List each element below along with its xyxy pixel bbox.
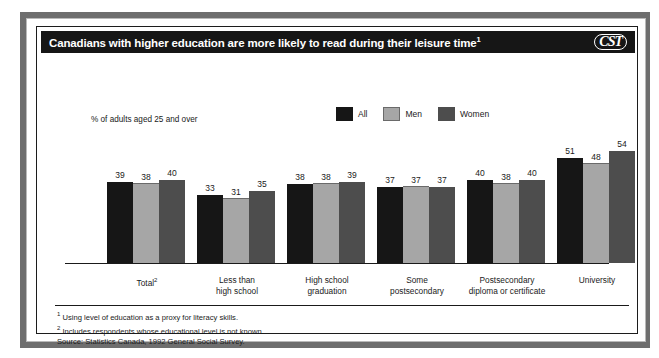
footnotes-block: 1 Using level of education as a proxy fo… [57, 309, 627, 348]
chart-card: Canadians with higher education are more… [36, 26, 638, 334]
bar [313, 183, 339, 263]
bar-chart-canvas: 393840333135383839373737403840514854 [87, 139, 627, 263]
bar-group: 383839 [287, 139, 365, 263]
bar-column: 40 [467, 139, 493, 263]
x-axis-label-line: University [538, 275, 656, 286]
bar-column: 38 [313, 139, 339, 263]
footnote-line: 1 Using level of education as a proxy fo… [57, 309, 627, 323]
bar-column: 48 [583, 139, 609, 263]
chart-legend: All Men Women [336, 107, 489, 121]
footnote-line: 2 Includes respondents whose educational… [57, 323, 627, 337]
bar-column: 39 [107, 139, 133, 263]
bar-column: 39 [339, 139, 365, 263]
bar [557, 158, 583, 263]
bar-column: 38 [493, 139, 519, 263]
bar [159, 180, 185, 263]
page-root: Canadians with higher education are more… [0, 0, 659, 358]
bar [223, 198, 249, 263]
footnote-marker: 2 [57, 325, 60, 331]
bar-value-label: 39 [337, 170, 367, 180]
category-footnote-marker: 2 [154, 277, 157, 283]
bar-group: 514854 [557, 139, 635, 263]
bar-value-label: 54 [607, 139, 637, 149]
bar [377, 187, 403, 263]
y-axis-label: % of adults aged 25 and over [91, 115, 198, 124]
legend-item-men: Men [383, 107, 422, 121]
legend-swatch-all [336, 107, 353, 121]
bar-column: 31 [223, 139, 249, 263]
bar-column: 40 [519, 139, 545, 263]
cst-logo: CST [594, 34, 627, 50]
bar-group: 373737 [377, 139, 455, 263]
legend-label-men: Men [405, 109, 422, 119]
bar-column: 37 [429, 139, 455, 263]
bar-value-label: 37 [427, 175, 457, 185]
chart-title-text: Canadians with higher education are more… [49, 37, 477, 49]
bar-column: 54 [609, 139, 635, 263]
bar-column: 33 [197, 139, 223, 263]
bar [609, 151, 635, 263]
bar [429, 187, 455, 263]
bar-column: 38 [287, 139, 313, 263]
bar-column: 51 [557, 139, 583, 263]
bar [467, 180, 493, 263]
footnote-line: Source: Statistics Canada, 1992 General … [57, 337, 627, 348]
footnote-marker: 1 [57, 311, 60, 317]
x-axis-label: University [538, 275, 656, 286]
bar [403, 186, 429, 263]
bar [249, 191, 275, 263]
bar-value-label: 48 [581, 152, 611, 162]
bar-column: 37 [403, 139, 429, 263]
bar [493, 183, 519, 263]
bar [339, 182, 365, 263]
legend-label-all: All [358, 109, 367, 119]
bar [583, 163, 609, 263]
bar-value-label: 40 [517, 168, 547, 178]
bar-group: 393840 [107, 139, 185, 263]
legend-swatch-women [438, 107, 455, 121]
bar-group: 333135 [197, 139, 275, 263]
bar-value-label: 40 [157, 168, 187, 178]
x-axis-category-labels: Total2Less thanhigh schoolHigh schoolgra… [87, 267, 635, 307]
bar [197, 195, 223, 263]
bar-column: 37 [377, 139, 403, 263]
page-title: Canadians with higher education are more… [49, 35, 481, 49]
bar-column: 40 [159, 139, 185, 263]
chart-baseline [65, 263, 609, 264]
bar [287, 184, 313, 263]
legend-swatch-men [383, 107, 400, 121]
x-axis-label-line: diploma or certificate [448, 286, 566, 297]
bar-column: 35 [249, 139, 275, 263]
bar-group: 403840 [467, 139, 545, 263]
bar-column: 38 [133, 139, 159, 263]
bar-value-label: 35 [247, 179, 277, 189]
plot-area: % of adults aged 25 and over All Men Wom… [41, 53, 635, 331]
bar [107, 182, 133, 263]
legend-item-all: All [336, 107, 367, 121]
title-footnote-marker: 1 [477, 35, 481, 44]
legend-label-women: Women [460, 109, 489, 119]
footnote-divider [55, 305, 629, 306]
legend-item-women: Women [438, 107, 489, 121]
bar [519, 180, 545, 263]
chart-title-bar: Canadians with higher education are more… [41, 31, 635, 53]
bar [133, 183, 159, 263]
